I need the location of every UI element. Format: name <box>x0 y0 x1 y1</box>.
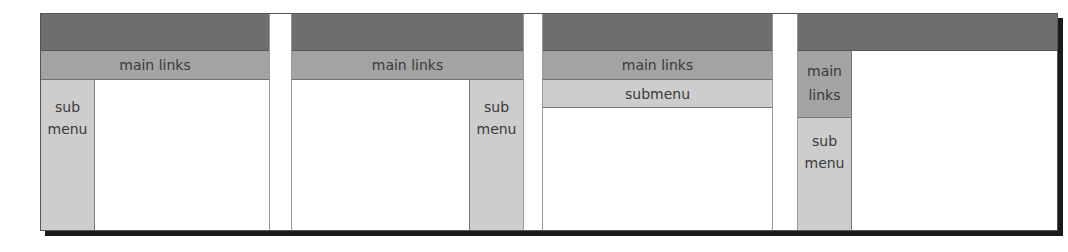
main-links-label: main links <box>622 57 693 73</box>
main-links-line2: links <box>798 83 851 107</box>
panel-divider <box>772 14 798 230</box>
wireframe-frame: main links sub menu main links sub menu … <box>40 13 1058 231</box>
submenu-sidebar-left: sub menu <box>798 118 852 230</box>
main-links-bar: main links <box>41 51 269 80</box>
submenu-label: submenu <box>625 86 690 102</box>
main-links-bar: main links <box>292 51 523 80</box>
header-bar <box>41 14 269 51</box>
submenu-label-line1: sub <box>41 96 94 118</box>
main-links-label: main links <box>119 57 190 73</box>
submenu-sidebar-right: sub menu <box>469 80 523 230</box>
header-bar <box>543 14 772 51</box>
submenu-bar-top: submenu <box>543 80 772 108</box>
layout-panel-4: main links sub menu <box>798 14 1057 230</box>
panel-divider <box>523 14 543 230</box>
main-links-bar: main links <box>543 51 772 80</box>
header-bar <box>798 14 1057 51</box>
submenu-label-line2: menu <box>798 152 851 174</box>
submenu-label-line1: sub <box>798 130 851 152</box>
layout-panel-3: main links submenu <box>543 14 772 230</box>
submenu-sidebar-left: sub menu <box>41 80 95 230</box>
main-links-sidebar: main links <box>798 51 852 118</box>
layout-panel-2: main links sub menu <box>292 14 523 230</box>
header-bar <box>292 14 523 51</box>
submenu-label-line2: menu <box>470 118 523 140</box>
layout-panel-1: main links sub menu <box>41 14 269 230</box>
submenu-label-line2: menu <box>41 118 94 140</box>
main-links-line1: main <box>798 59 851 83</box>
submenu-label-line1: sub <box>470 96 523 118</box>
panel-divider <box>269 14 292 230</box>
main-links-label: main links <box>372 57 443 73</box>
